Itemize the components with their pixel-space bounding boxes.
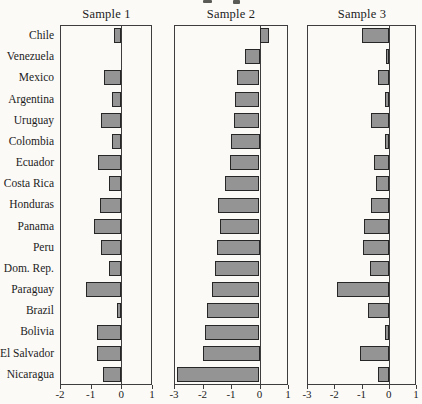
bar-colombia-sample-3 [385, 134, 389, 149]
row-label-bolivia: Bolivia [0, 321, 54, 342]
bar-panama-sample-1 [94, 219, 122, 234]
x-tick-label-sample-1: -1 [78, 388, 104, 400]
cropped-text-artifact [233, 0, 240, 4]
bar-costa-rica-sample-2 [225, 176, 259, 191]
bar-brazil-sample-3 [368, 303, 388, 318]
bar-argentina-sample-2 [235, 92, 259, 107]
panel-title-sample-1: Sample 1 [60, 7, 153, 23]
row-label-nicaragua: Nicaragua [0, 364, 54, 385]
bar-uruguay-sample-2 [234, 113, 260, 128]
bar-mexico-sample-1 [104, 70, 121, 85]
x-tick-label-sample-2: 0 [247, 388, 273, 400]
bar-nicaragua-sample-1 [103, 367, 121, 382]
bar-chile-sample-1 [114, 28, 122, 43]
bar-colombia-sample-2 [231, 134, 260, 149]
x-tick-label-sample-1: 0 [108, 388, 134, 400]
row-label-brazil: Brazil [0, 300, 54, 321]
bar-peru-sample-2 [217, 240, 260, 255]
bar-uruguay-sample-1 [101, 113, 121, 128]
bar-nicaragua-sample-3 [378, 367, 389, 382]
row-label-colombia: Colombia [0, 131, 54, 152]
bar-paraguay-sample-2 [212, 282, 259, 297]
bar-paraguay-sample-1 [86, 282, 121, 297]
zero-line-sample-2 [260, 25, 261, 385]
bar-costa-rica-sample-3 [376, 176, 388, 191]
bar-el-salvador-sample-1 [97, 346, 122, 361]
bar-costa-rica-sample-1 [109, 176, 121, 191]
row-label-honduras: Honduras [0, 194, 54, 215]
zero-line-sample-1 [121, 25, 122, 385]
row-label-mexico: Mexico [0, 67, 54, 88]
bar-chart-figure: Sample 1 Sample 2 Sample 3 ChileVenezuel… [0, 0, 422, 404]
bar-bolivia-sample-2 [205, 325, 259, 340]
x-tick-label-sample-2: -1 [218, 388, 244, 400]
bar-peru-sample-1 [101, 240, 121, 255]
row-label-el-salvador: El Salvador [0, 343, 54, 364]
bar-ecuador-sample-2 [230, 155, 260, 170]
bar-honduras-sample-2 [218, 198, 259, 213]
row-label-costa-rica: Costa Rica [0, 173, 54, 194]
panel-title-sample-3: Sample 3 [307, 7, 417, 23]
x-tick-label-sample-1: -2 [47, 388, 73, 400]
cropped-text-artifact [203, 0, 212, 3]
bar-dom-rep-sample-3 [370, 261, 389, 276]
bar-argentina-sample-1 [112, 92, 121, 107]
bar-bolivia-sample-1 [97, 325, 122, 340]
x-tick-label-sample-2: -3 [161, 388, 187, 400]
bar-dom-rep-sample-1 [109, 261, 121, 276]
x-tick-label-sample-3: -3 [294, 388, 320, 400]
row-label-paraguay: Paraguay [0, 279, 54, 300]
bar-peru-sample-3 [363, 240, 389, 255]
bar-chile-sample-2 [260, 28, 270, 43]
x-tick-label-sample-3: -1 [349, 388, 375, 400]
bar-panama-sample-2 [220, 219, 260, 234]
bar-honduras-sample-1 [100, 198, 121, 213]
bar-chile-sample-3 [362, 28, 389, 43]
bar-paraguay-sample-3 [337, 282, 389, 297]
bar-venezuela-sample-3 [386, 49, 389, 64]
bar-ecuador-sample-1 [98, 155, 121, 170]
panel-title-sample-2: Sample 2 [174, 7, 288, 23]
row-label-argentina: Argentina [0, 89, 54, 110]
row-label-venezuela: Venezuela [0, 46, 54, 67]
bar-ecuador-sample-3 [374, 155, 389, 170]
plot-area-sample-3 [307, 25, 416, 385]
x-tick-label-sample-3: 1 [403, 388, 422, 400]
bar-uruguay-sample-3 [371, 113, 389, 128]
zero-line-sample-3 [389, 25, 390, 385]
bar-colombia-sample-1 [112, 134, 121, 149]
row-label-uruguay: Uruguay [0, 110, 54, 131]
bar-el-salvador-sample-2 [203, 346, 260, 361]
bar-honduras-sample-3 [371, 198, 389, 213]
bar-dom-rep-sample-2 [215, 261, 259, 276]
row-label-peru: Peru [0, 237, 54, 258]
x-tick-label-sample-2: -2 [190, 388, 216, 400]
row-label-panama: Panama [0, 216, 54, 237]
row-label-chile: Chile [0, 25, 54, 46]
x-tick-label-sample-3: -2 [321, 388, 347, 400]
row-label-dom-rep: Dom. Rep. [0, 258, 54, 279]
bar-brazil-sample-2 [207, 303, 260, 318]
bar-panama-sample-3 [364, 219, 389, 234]
bar-bolivia-sample-3 [385, 325, 389, 340]
bar-mexico-sample-2 [237, 70, 260, 85]
bar-argentina-sample-3 [385, 92, 389, 107]
bar-venezuela-sample-2 [245, 49, 259, 64]
bar-nicaragua-sample-2 [177, 367, 260, 382]
bar-mexico-sample-3 [378, 70, 389, 85]
bar-brazil-sample-1 [117, 303, 122, 318]
row-label-ecuador: Ecuador [0, 152, 54, 173]
x-tick-label-sample-3: 0 [376, 388, 402, 400]
bar-el-salvador-sample-3 [360, 346, 389, 361]
